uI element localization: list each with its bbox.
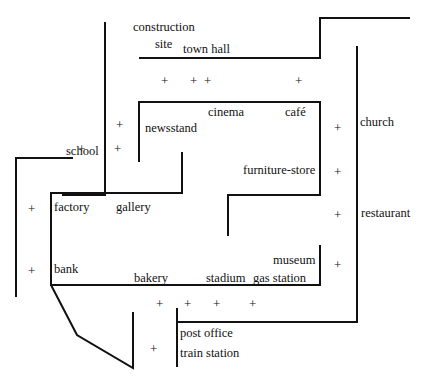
label-restaurant: restaurant <box>361 206 410 220</box>
label-gas-station: gas station <box>253 271 306 285</box>
plus-marker-icon: + <box>184 297 191 310</box>
plus-marker-icon: + <box>161 74 168 87</box>
plus-marker-icon: + <box>150 342 157 355</box>
label-post-office: post office <box>180 326 233 340</box>
plus-marker-icon: + <box>156 297 163 310</box>
label-newsstand: newsstand <box>145 121 197 135</box>
plus-marker-icon: + <box>28 202 35 215</box>
label-church: church <box>360 115 394 129</box>
plus-marker-icon: + <box>213 297 220 310</box>
plus-marker-icon: + <box>190 74 197 87</box>
plus-marker-icon: + <box>78 142 85 155</box>
label-cinema: cinema <box>208 105 244 119</box>
label-bank: bank <box>54 262 78 276</box>
street-left-outer <box>16 158 73 297</box>
label-stadium: stadium <box>206 271 246 285</box>
label-furniture-store: furniture-store <box>243 163 315 177</box>
plus-marker-icon: + <box>28 264 35 277</box>
plus-marker-icon: + <box>249 297 256 310</box>
plus-marker-icon: + <box>334 258 341 271</box>
label-factory: factory <box>54 200 89 214</box>
label-construction: construction <box>133 20 195 34</box>
plus-marker-icon: + <box>114 142 121 155</box>
label-museum: museum <box>273 253 315 267</box>
street-diagonal-road <box>51 285 133 368</box>
plus-marker-icon: + <box>334 208 341 221</box>
plus-marker-icon: + <box>204 74 211 87</box>
label-town-hall: town hall <box>183 42 230 56</box>
street-top-left-vertical <box>62 22 105 195</box>
label-site: site <box>155 37 172 51</box>
plus-marker-icon: + <box>116 118 123 131</box>
plus-marker-icon: + <box>334 121 341 134</box>
label-train-station: train station <box>180 346 239 360</box>
plus-marker-icon: + <box>334 165 341 178</box>
plus-marker-icon: + <box>295 74 302 87</box>
label-cafe: café <box>285 105 306 119</box>
label-bakery: bakery <box>134 271 168 285</box>
label-gallery: gallery <box>116 200 151 214</box>
